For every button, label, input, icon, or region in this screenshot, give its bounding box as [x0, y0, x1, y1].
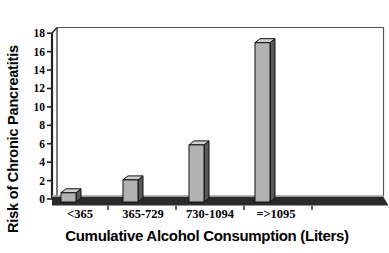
x-category-label: =>1095 [256, 207, 295, 221]
y-tick-label: 10 [34, 101, 46, 113]
floor-front [52, 197, 389, 206]
bar-=>1095 [255, 39, 275, 202]
plot-area: 024681012141618 <365365-729730-1094=>109… [0, 0, 389, 253]
bar-<365 [61, 189, 81, 202]
y-tick-label: 12 [34, 82, 46, 94]
axis-frame [51, 28, 383, 199]
y-tick-label: 18 [34, 27, 46, 39]
y-tick-label: 2 [39, 175, 45, 187]
x-category-label: 365-729 [122, 207, 164, 221]
y-tick-label: 4 [39, 156, 45, 168]
x-axis-ticks: <365365-729730-1094=>1095 [67, 206, 312, 222]
x-category-label: 730-1094 [186, 207, 235, 221]
y-axis-ticks: 024681012141618 [34, 27, 53, 205]
bars [61, 39, 275, 202]
y-tick-label: 8 [39, 119, 45, 131]
bar-730-1094 [189, 141, 209, 202]
y-tick-label: 0 [39, 193, 45, 205]
bar-side-face [204, 141, 209, 202]
y-tick-label: 14 [34, 64, 46, 76]
x-axis-title: Cumulative Alcohol Consumption (Liters) [65, 227, 349, 244]
bar-365-729 [123, 176, 143, 202]
y-tick-label: 6 [39, 138, 45, 150]
bar-front-face [123, 180, 138, 202]
bar-front-face [255, 43, 270, 202]
x-category-label: <365 [67, 207, 93, 221]
pancreatitis-risk-bar-chart: Risk of Chronic Pancreatitis 02468101214… [0, 0, 389, 253]
bar-side-face [270, 39, 275, 202]
bar-front-face [61, 193, 76, 202]
floor [52, 195, 389, 205]
y-tick-label: 16 [34, 46, 46, 58]
bar-front-face [189, 145, 204, 202]
